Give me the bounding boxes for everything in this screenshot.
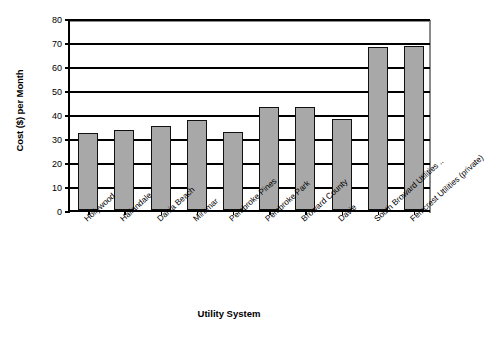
y-tick-label: 50 [52,87,62,97]
y-tick-label: 0 [57,207,62,217]
plot-area: 01020304050607080 [68,20,430,212]
bar [368,47,388,210]
y-tick-mark [65,91,70,93]
y-axis-title: Cost ($) per Month [10,30,28,190]
y-tick-mark [65,163,70,165]
y-tick-label: 70 [52,39,62,49]
y-tick-mark [65,19,70,21]
y-tick-mark [65,43,70,45]
x-axis-title: Utility System [0,308,458,319]
gridline-80 [70,19,430,21]
y-tick-mark [65,211,70,213]
y-tick-label: 60 [52,63,62,73]
y-tick-label: 40 [52,111,62,121]
y-axis-title-text: Cost ($) per Month [14,69,25,151]
y-tick-mark [65,187,70,189]
y-tick-mark [65,67,70,69]
bar [78,133,98,210]
gridline-70 [70,43,430,45]
y-tick-label: 10 [52,183,62,193]
y-tick-label: 30 [52,135,62,145]
x-axis-title-text: Utility System [198,308,261,319]
y-tick-mark [65,115,70,117]
y-tick-label: 20 [52,159,62,169]
bar [223,132,243,210]
y-tick-mark [65,139,70,141]
y-tick-label: 80 [52,15,62,25]
bar [114,130,134,210]
